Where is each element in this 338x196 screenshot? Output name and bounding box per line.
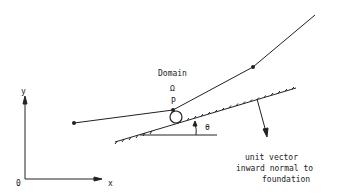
coordinate-axes [23, 96, 102, 181]
domain-label: Domain [158, 69, 187, 78]
diagram-canvas: y x 0 θ [0, 0, 338, 196]
x-axis-label: x [108, 179, 113, 188]
normal-caption-line3: foundation [262, 175, 310, 184]
omega-label: Ω [170, 84, 175, 93]
normal-vector-arrow [257, 99, 268, 137]
domain-boundary [74, 15, 315, 123]
normal-caption-line2: inward normal to [236, 164, 313, 173]
point-p-label: P [171, 97, 176, 106]
normal-caption-line1: unit vector [245, 153, 298, 162]
contact-circle [170, 111, 182, 123]
y-axis-label: y [21, 87, 26, 96]
boundary-node-right [251, 65, 255, 69]
boundary-node-left [72, 121, 76, 125]
theta-label: θ [205, 123, 210, 132]
origin-label: 0 [16, 179, 21, 188]
